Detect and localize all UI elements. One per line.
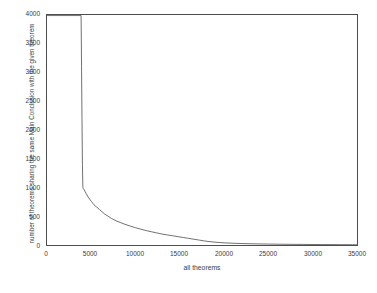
xtick-label-10000: 10000 [126, 250, 144, 258]
chart-figure: 0 500 1000 1500 2000 2500 3000 3500 4000… [0, 0, 377, 293]
xtick-label-5000: 5000 [83, 250, 97, 258]
line-series-svg [47, 15, 357, 245]
xtick-label-0: 0 [44, 250, 48, 258]
plot-area [46, 14, 358, 246]
x-axis-label: all theorems [46, 264, 358, 271]
series-line [47, 16, 357, 245]
xtick-label-25000: 25000 [259, 250, 277, 258]
xtick-label-20000: 20000 [215, 250, 233, 258]
xtick-label-30000: 30000 [304, 250, 322, 258]
xtick-label-35000: 35000 [348, 250, 366, 258]
y-axis-label: number of theorems sharing the same Main… [28, 18, 35, 250]
xtick-label-15000: 15000 [170, 250, 188, 258]
